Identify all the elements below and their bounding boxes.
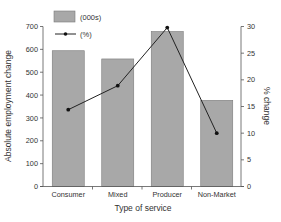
line-marker-non-market (215, 131, 219, 135)
left-tick-label: 600 (26, 45, 38, 54)
right-tick-label: 15 (247, 102, 255, 111)
x-tick-label: Mixed (108, 190, 127, 199)
left-tick-label: 400 (26, 91, 38, 100)
bar-consumer (52, 51, 84, 187)
bar-non-market (201, 100, 233, 186)
right-y-axis: 051015202530 (241, 22, 255, 191)
y-axis-label: Absolute employment change (3, 50, 13, 162)
legend-bar-label: (000s) (80, 13, 102, 22)
pct-change-line (68, 28, 217, 134)
x-tick-label: Producer (152, 190, 182, 199)
right-tick-label: 25 (247, 49, 255, 58)
right-tick-label: 5 (247, 155, 251, 164)
left-tick-label: 700 (26, 22, 38, 31)
bar-mixed (102, 59, 134, 187)
bar-producer (151, 32, 183, 187)
line-marker-producer (165, 26, 169, 30)
line-series (66, 26, 218, 135)
x-axis-label: Type of service (114, 203, 171, 213)
line-marker-mixed (116, 84, 120, 88)
line-marker-consumer (66, 108, 70, 112)
chart: 0100200300400500600700 051015202530 Cons… (0, 0, 281, 222)
legend-line-label: (%) (80, 30, 92, 39)
left-tick-label: 300 (26, 114, 38, 123)
left-tick-label: 100 (26, 159, 38, 168)
left-tick-label: 500 (26, 68, 38, 77)
left-tick-label: 0 (34, 182, 38, 191)
right-tick-label: 30 (247, 22, 255, 31)
legend: (000s) (%) (54, 11, 102, 39)
right-tick-label: 10 (247, 129, 255, 138)
left-y-axis: 0100200300400500600700 (26, 22, 43, 191)
left-tick-label: 200 (26, 136, 38, 145)
x-tick-label: Consumer (51, 190, 85, 199)
right-tick-label: 20 (247, 75, 255, 84)
legend-bar-swatch (54, 11, 75, 22)
legend-line-marker (64, 32, 68, 36)
y2-axis-label: % change (262, 87, 272, 125)
x-tick-label: Non-Market (198, 190, 236, 199)
x-axis: ConsumerMixedProducerNon-Market (40, 187, 244, 199)
right-tick-label: 0 (247, 182, 251, 191)
